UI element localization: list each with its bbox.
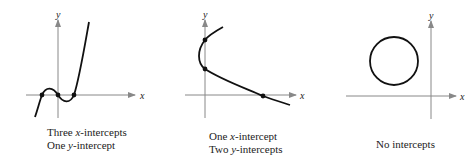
x-intercept-point (261, 94, 266, 99)
x-axis-label: x (460, 90, 464, 103)
caption-parabola: One x-intercept Two y-intercepts (209, 130, 282, 156)
panel-parabola (185, 20, 296, 118)
x-axis-label: x (300, 89, 304, 102)
y-axis-label: y (56, 8, 60, 21)
circle-curve (370, 37, 418, 85)
x-axis-label: x (140, 89, 144, 102)
y-intercept-point (203, 38, 208, 43)
panel-cubic (26, 20, 135, 118)
origin-intercept-point (56, 93, 61, 98)
cubic-curve (35, 22, 89, 117)
caption-cubic: Three x-intercepts One y-intercept (47, 126, 127, 152)
x-intercept-point (40, 93, 45, 98)
caption-circle: No intercepts (376, 138, 435, 151)
y-intercept-point (203, 67, 208, 72)
x-intercept-point (72, 93, 77, 98)
y-axis-label: y (429, 9, 433, 22)
parabola-curve (199, 27, 290, 105)
y-axis-label: y (203, 8, 207, 21)
panel-circle (346, 21, 456, 119)
